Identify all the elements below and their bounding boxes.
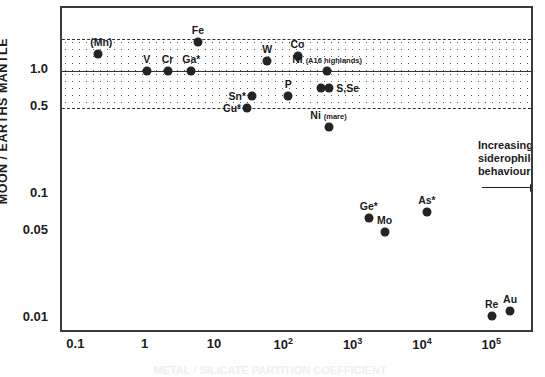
y-tick-minor — [60, 259, 62, 260]
x-tick-minor — [110, 330, 111, 332]
x-tick-minor — [483, 330, 484, 332]
data-point-label: Cr — [162, 53, 174, 65]
x-tick-major — [424, 330, 425, 332]
y-tick-label: 0.01 — [0, 309, 48, 324]
x-tick-minor — [249, 330, 250, 332]
x-tick-minor — [264, 330, 265, 332]
x-tick-minor — [201, 330, 202, 332]
x-tick-minor — [318, 330, 319, 332]
data-point — [142, 66, 151, 75]
x-tick-minor — [213, 330, 214, 332]
data-point-label: (Mn) — [90, 36, 112, 48]
x-tick-minor — [445, 330, 446, 332]
x-tick-label: 105 — [482, 336, 501, 352]
y-tick-minor — [60, 331, 62, 332]
x-tick-minor — [388, 330, 389, 332]
data-point — [187, 66, 196, 75]
data-point — [263, 56, 272, 65]
x-tick-label: 103 — [343, 336, 362, 352]
data-point-label: Re — [485, 298, 498, 310]
figure: MOON / EARTHS MANTLE (Mn)VCrGa*FeCu*Sn*W… — [0, 0, 545, 377]
band-bottom-boundary — [62, 108, 531, 109]
data-point-label: Co — [291, 38, 305, 50]
data-point — [364, 213, 373, 222]
x-tick-minor — [258, 330, 259, 332]
x-tick-minor — [478, 330, 479, 332]
x-tick-minor — [216, 330, 217, 332]
x-tick-minor — [421, 330, 422, 332]
x-tick-major — [216, 330, 217, 332]
y-tick-minor — [60, 98, 62, 99]
x-tick-minor — [285, 330, 286, 332]
x-tick-minor — [140, 330, 141, 332]
x-tick-minor — [180, 330, 181, 332]
y-tick-label: 0.5 — [0, 98, 48, 113]
x-tick-minor — [136, 330, 137, 332]
x-tick-minor — [237, 330, 238, 332]
y-tick-minor — [60, 135, 62, 136]
y-tick-minor — [60, 33, 62, 34]
y-tick-minor — [60, 324, 62, 325]
x-tick-minor — [168, 330, 169, 332]
y-tick-major — [60, 71, 62, 72]
x-tick-minor — [77, 330, 78, 332]
x-tick-major — [77, 330, 78, 332]
x-tick-minor — [275, 330, 276, 332]
x-tick-minor — [205, 330, 206, 332]
band-unity-line — [62, 71, 531, 72]
y-tick-minor — [60, 157, 62, 158]
y-tick-minor — [60, 214, 62, 215]
y-tick-major — [60, 108, 62, 109]
x-tick-label: 0.1 — [66, 336, 84, 351]
data-point-label: Ge* — [360, 200, 378, 212]
y-tick-minor — [60, 11, 62, 12]
data-point-label: Mo — [377, 214, 392, 226]
data-point-label: Au — [503, 293, 517, 305]
x-tick-minor — [403, 330, 404, 332]
x-tick-major — [147, 330, 148, 332]
x-tick-minor — [348, 330, 349, 332]
y-tick-major — [60, 232, 62, 233]
stipple-band-lower — [62, 71, 531, 108]
x-tick-minor — [413, 330, 414, 332]
annotation-arrow-line — [482, 187, 532, 188]
annotation-line: siderophile — [478, 152, 533, 165]
data-point — [325, 84, 334, 93]
x-tick-label: 1 — [141, 336, 148, 351]
data-point-label: Ni (A16 highlands) — [292, 53, 362, 65]
data-point — [323, 66, 332, 75]
y-tick-minor — [60, 120, 62, 121]
x-tick-minor — [490, 330, 491, 332]
x-tick-minor — [472, 330, 473, 332]
data-point — [163, 66, 172, 75]
y-tick-minor — [60, 90, 62, 91]
x-tick-minor — [514, 330, 515, 332]
y-tick-minor — [60, 76, 62, 77]
y-tick-major — [60, 195, 62, 196]
y-tick-label: 0.05 — [0, 222, 48, 237]
x-tick-label: 104 — [412, 336, 431, 352]
x-tick-major — [493, 330, 494, 332]
x-tick-minor — [270, 330, 271, 332]
x-tick-label: 10 — [207, 336, 221, 351]
x-tick-minor — [344, 330, 345, 332]
x-tick-minor — [195, 330, 196, 332]
data-point-label: V — [143, 53, 150, 65]
annotation-line: behaviour — [478, 165, 533, 178]
data-point-label: Fe — [192, 24, 204, 36]
y-tick-minor — [60, 207, 62, 208]
data-point — [247, 92, 256, 101]
y-tick-minor — [60, 200, 62, 201]
x-tick-minor — [147, 330, 148, 332]
x-tick-minor — [144, 330, 145, 332]
x-tick-major — [355, 330, 356, 332]
data-point — [324, 123, 333, 132]
data-point-label: Sn* — [229, 90, 246, 102]
data-point-label: Cu* — [223, 102, 241, 114]
y-tick-label: 0.1 — [0, 185, 48, 200]
x-tick-minor — [334, 330, 335, 332]
x-tick-minor — [487, 330, 488, 332]
x-tick-minor — [376, 330, 377, 332]
x-tick-minor — [119, 330, 120, 332]
y-tick-minor — [60, 222, 62, 223]
